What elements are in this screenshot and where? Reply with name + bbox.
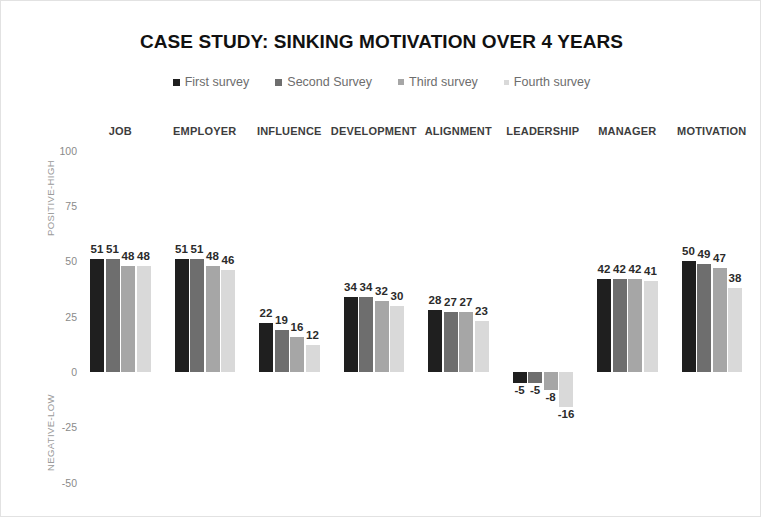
bar <box>137 266 151 372</box>
bar <box>428 310 442 372</box>
bar <box>544 372 558 390</box>
chart-container: CASE STUDY: SINKING MOTIVATION OVER 4 YE… <box>0 0 761 517</box>
bar <box>259 323 273 372</box>
bars-layer: 5151484851514846221916123434323028272723… <box>1 1 761 517</box>
bar <box>344 297 358 372</box>
bar-value-label: 41 <box>638 265 664 277</box>
bar <box>306 345 320 372</box>
bar-value-label: 48 <box>131 250 157 262</box>
bar-value-label: 23 <box>469 305 495 317</box>
bar <box>190 259 204 372</box>
bar-value-label: 30 <box>384 290 410 302</box>
bar-value-label: 12 <box>300 329 326 341</box>
bar <box>475 321 489 372</box>
bar-value-label: 46 <box>215 254 241 266</box>
bar <box>290 337 304 372</box>
bar <box>106 259 120 372</box>
bar <box>682 261 696 372</box>
bar <box>628 279 642 372</box>
bar-value-label: 38 <box>722 272 748 284</box>
bar <box>597 279 611 372</box>
bar <box>275 330 289 372</box>
bar <box>206 266 220 372</box>
bar <box>375 301 389 372</box>
bar <box>644 281 658 372</box>
plot-area: 1007550250-25-50 POSITIVE-HIGH NEGATIVE-… <box>1 1 761 517</box>
bar <box>221 270 235 372</box>
bar <box>359 297 373 372</box>
bar <box>613 279 627 372</box>
bar <box>513 372 527 383</box>
bar <box>444 312 458 372</box>
bar <box>90 259 104 372</box>
bar <box>697 264 711 372</box>
bar <box>390 306 404 372</box>
bar <box>559 372 573 407</box>
bar-value-label: -16 <box>553 408 579 420</box>
bar <box>728 288 742 372</box>
bar-value-label: 47 <box>707 252 733 264</box>
bar <box>121 266 135 372</box>
bar <box>528 372 542 383</box>
bar <box>459 312 473 372</box>
bar <box>175 259 189 372</box>
